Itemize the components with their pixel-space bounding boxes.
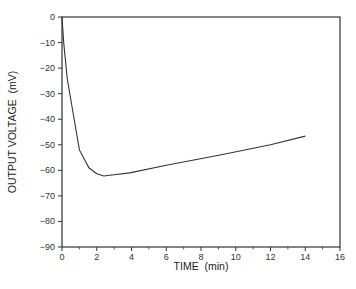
y-axis-title: OUTPUT VOLTAGE (mV) [6, 71, 18, 194]
x-tick-label: 2 [94, 252, 99, 262]
y-tick-label: 0 [50, 12, 55, 22]
voltage-curve [62, 17, 305, 176]
y-tick-label: −30 [40, 89, 55, 99]
y-tick-label: −50 [40, 140, 55, 150]
x-tick-label: 4 [129, 252, 134, 262]
x-tick-label: 6 [164, 252, 169, 262]
x-tick-label: 0 [59, 252, 64, 262]
x-tick-label: 12 [265, 252, 275, 262]
y-tick-label: −20 [40, 63, 55, 73]
x-axis-title: TIME (min) [174, 260, 229, 272]
y-tick-label: −10 [40, 38, 55, 48]
y-axis-ticks: 0−10−20−30−40−50−60−70−80−90 [40, 12, 62, 252]
x-tick-label: 16 [335, 252, 345, 262]
x-tick-label: 10 [231, 252, 241, 262]
y-tick-label: −40 [40, 114, 55, 124]
plot-border [62, 17, 340, 247]
y-tick-label: −90 [40, 242, 55, 252]
line-chart: 0−10−20−30−40−50−60−70−80−90 02468101214… [0, 0, 356, 289]
plot-frame [62, 17, 340, 247]
y-tick-label: −80 [40, 216, 55, 226]
y-tick-label: −60 [40, 165, 55, 175]
y-tick-label: −70 [40, 191, 55, 201]
x-tick-label: 14 [300, 252, 310, 262]
